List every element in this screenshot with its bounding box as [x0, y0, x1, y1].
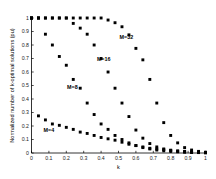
- data-point: [58, 124, 61, 127]
- data-point: [141, 146, 144, 149]
- data-point: [114, 87, 117, 90]
- data-point: [79, 131, 82, 134]
- x-tick-label: 0.2: [63, 155, 70, 161]
- y-tick-label: 1: [26, 15, 29, 21]
- data-point: [93, 134, 96, 137]
- data-point: [72, 128, 75, 131]
- data-point: [37, 17, 40, 20]
- data-point: [93, 17, 96, 20]
- y-tick-label: 0.1: [22, 136, 29, 142]
- data-point: [58, 17, 61, 20]
- data-points-group: [30, 17, 207, 155]
- data-point: [204, 151, 207, 154]
- data-point: [107, 128, 110, 131]
- series-annotations-group: M=4M=8M=16M=32: [44, 34, 134, 133]
- data-point: [197, 150, 200, 153]
- data-point: [86, 102, 89, 105]
- data-point: [107, 71, 110, 74]
- data-point: [72, 78, 75, 81]
- data-point: [93, 44, 96, 47]
- x-tick-label: 0.6: [132, 155, 139, 161]
- data-point: [162, 148, 165, 151]
- data-point: [72, 17, 75, 20]
- data-point: [141, 58, 144, 61]
- data-point: [65, 126, 68, 129]
- data-point: [134, 144, 137, 147]
- y-tick-label: 0.5: [22, 82, 29, 88]
- y-tick-label: 0.9: [22, 28, 29, 34]
- data-point: [44, 17, 47, 20]
- data-point: [65, 64, 68, 67]
- x-tick-label: 0: [30, 155, 33, 161]
- data-point: [121, 141, 124, 144]
- data-point: [176, 141, 179, 144]
- y-axis-title: Normalized number of k-optimal solutions…: [9, 28, 15, 143]
- y-tick-label: 0.4: [22, 96, 29, 102]
- data-point: [86, 33, 89, 36]
- data-point: [79, 87, 82, 90]
- y-tick-label: 0.7: [22, 55, 29, 61]
- data-point: [148, 78, 151, 81]
- data-point: [176, 150, 179, 153]
- data-point: [162, 121, 165, 124]
- scatter-plot: 00.10.20.30.40.50.60.70.80.9100.10.20.30…: [0, 0, 216, 179]
- series-label-m4: M=4: [44, 127, 55, 133]
- data-point: [72, 22, 75, 25]
- x-tick-label: 0.7: [150, 155, 157, 161]
- y-tick-label: 0.3: [22, 109, 29, 115]
- data-point: [107, 137, 110, 140]
- data-point: [155, 149, 158, 152]
- data-point: [93, 113, 96, 116]
- x-tick-label: 0.5: [115, 155, 122, 161]
- data-point: [65, 17, 68, 20]
- data-point: [100, 123, 103, 126]
- data-point: [44, 33, 47, 36]
- data-point: [37, 114, 40, 117]
- data-point: [127, 115, 130, 118]
- data-point: [100, 17, 103, 20]
- data-point: [127, 141, 130, 144]
- data-point: [44, 118, 47, 121]
- data-point: [30, 17, 33, 20]
- y-tick-label: 0: [26, 150, 29, 156]
- series-label-m16: M=16: [97, 56, 111, 62]
- x-tick-label: 0.8: [167, 155, 174, 161]
- x-tick-label: 0.1: [45, 155, 52, 161]
- data-point: [114, 134, 117, 137]
- x-tick-label: 1: [204, 155, 207, 161]
- series-label-m8: M=8: [67, 84, 78, 90]
- data-point: [190, 149, 193, 152]
- data-point: [148, 148, 151, 151]
- data-point: [114, 139, 117, 142]
- data-point: [79, 17, 82, 20]
- data-point: [51, 44, 54, 47]
- data-point: [114, 21, 117, 24]
- data-point: [134, 129, 137, 132]
- series-label-m32: M=32: [120, 34, 134, 40]
- data-point: [86, 132, 89, 135]
- data-point: [121, 102, 124, 105]
- data-point: [148, 142, 151, 145]
- data-point: [121, 138, 124, 141]
- x-tick-label: 0.4: [97, 155, 104, 161]
- data-point: [58, 55, 61, 58]
- data-point: [121, 25, 124, 28]
- y-tick-label: 0.2: [22, 123, 29, 129]
- axis-lines: [32, 18, 206, 153]
- x-tick-label: 0.9: [184, 155, 191, 161]
- x-axis-title: k: [117, 164, 120, 170]
- data-point: [169, 134, 172, 137]
- data-point: [183, 146, 186, 149]
- data-point: [79, 27, 82, 30]
- data-point: [51, 123, 54, 126]
- data-point: [134, 47, 137, 50]
- data-point: [155, 102, 158, 105]
- data-point: [86, 17, 89, 20]
- y-tick-label: 0.8: [22, 42, 29, 48]
- data-point: [107, 19, 110, 22]
- data-point: [183, 150, 186, 153]
- data-point: [155, 145, 158, 148]
- x-tick-label: 0.3: [80, 155, 87, 161]
- chart-figure: 00.10.20.30.40.50.60.70.80.9100.10.20.30…: [0, 0, 216, 179]
- data-point: [169, 149, 172, 152]
